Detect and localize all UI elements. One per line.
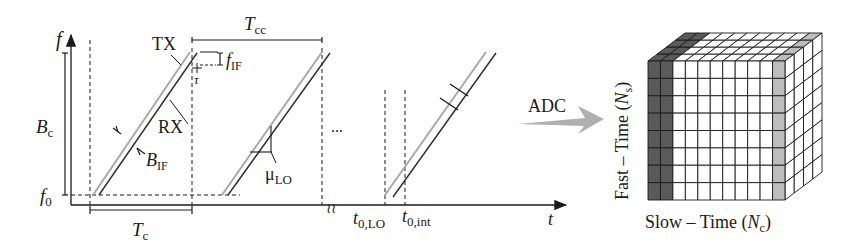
tick-mark bbox=[450, 84, 468, 96]
fast-time-label: Fast – Time (Ns) bbox=[612, 82, 635, 200]
slow-time-label: Slow – Time (Nc) bbox=[645, 212, 771, 235]
tick-mark bbox=[440, 98, 458, 110]
t0-int-label: t0,int bbox=[402, 206, 431, 229]
chirp-boundaries bbox=[90, 40, 405, 205]
diagram-canvas: f t Bc f0 TX RX bbox=[0, 0, 862, 248]
tx-label: TX bbox=[152, 34, 176, 54]
bandwidth-bracket: Bc bbox=[36, 53, 68, 195]
tc-label: Tc bbox=[132, 219, 149, 243]
axis-break-mark: ≀≀ bbox=[326, 201, 336, 216]
time-frequency-axes: f t bbox=[56, 28, 566, 229]
tx-leader bbox=[171, 55, 181, 65]
tcc-label: Tcc bbox=[244, 13, 266, 37]
bc-label: Bc bbox=[36, 116, 54, 140]
if-frequency-annotation: fIF τ bbox=[192, 50, 242, 87]
t-axis-label: t bbox=[548, 209, 554, 229]
rx-label: RX bbox=[158, 117, 183, 137]
tau-label: τ bbox=[194, 72, 200, 87]
mu-lo-label: μLO bbox=[265, 164, 292, 187]
fmcw-diagram: f t Bc f0 TX RX bbox=[0, 0, 862, 248]
chirp-cycle-bracket: Tcc bbox=[192, 13, 322, 43]
chirp-duration-bracket: Tc bbox=[90, 206, 192, 243]
f-axis-label: f bbox=[56, 28, 64, 51]
adc-label: ADC bbox=[528, 96, 566, 116]
data-cube bbox=[648, 33, 822, 200]
bif-label: BIF bbox=[146, 150, 168, 173]
chirp-3 bbox=[385, 52, 496, 197]
f0-label: f0 bbox=[40, 185, 52, 209]
fif-label: fIF bbox=[226, 50, 242, 73]
t0-lo-label: t0,LO bbox=[353, 208, 385, 231]
adc-conversion-arrow: ADC bbox=[518, 96, 604, 134]
ellipsis: ... bbox=[331, 118, 343, 135]
